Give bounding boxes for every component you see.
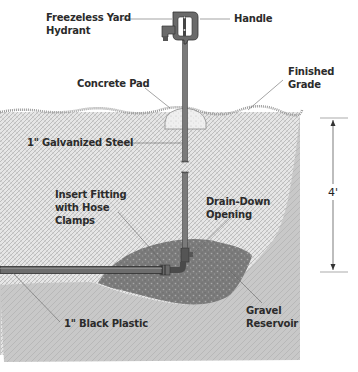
label-insert-fitting-line3: Clamps (55, 215, 95, 228)
arrow-up-icon (331, 120, 336, 126)
label-insert-fitting-line1: Insert Fitting (55, 189, 127, 202)
label-gravel-line1: Gravel (246, 305, 281, 318)
arrow-down-icon (331, 264, 336, 270)
depth-label: 4' (328, 186, 338, 199)
label-finished-grade-line2: Grade (288, 79, 321, 92)
hydrant-diagram (0, 0, 358, 372)
hydrant-head (162, 12, 198, 44)
label-hydrant-line2: Hydrant (46, 25, 90, 38)
label-black-plastic: 1" Black Plastic (64, 318, 148, 331)
label-galvanized-steel: 1" Galvanized Steel (27, 137, 133, 150)
label-drain-down-line2: Opening (206, 209, 252, 222)
label-concrete-pad: Concrete Pad (77, 78, 150, 91)
label-drain-down-line1: Drain-Down (206, 196, 270, 209)
label-handle: Handle (234, 13, 272, 26)
label-gravel-line2: Reservoir (246, 318, 298, 331)
label-finished-grade-line1: Finished (288, 66, 334, 79)
label-insert-fitting-line2: with Hose (55, 202, 109, 215)
label-hydrant-line1: Freezeless Yard (46, 12, 131, 25)
